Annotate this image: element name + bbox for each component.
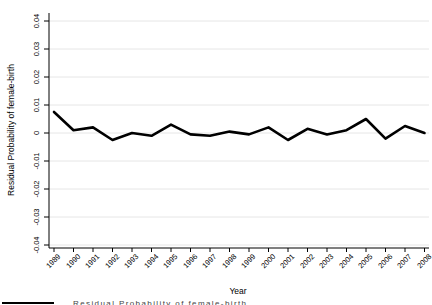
y-tick-label: -0.04 <box>31 228 41 262</box>
legend-label: Residual Probability of female-birth <box>73 299 247 305</box>
legend: Residual Probability of female-birth <box>0 299 432 305</box>
chart-figure: 0.040.030.020.010-0.01-0.02-0.03-0.04 19… <box>0 0 432 305</box>
y-axis-title: Residual Probability of female-birth <box>5 30 17 230</box>
legend-line-swatch <box>2 302 54 304</box>
data-line-residual-series <box>54 112 425 140</box>
x-axis-title: Year <box>188 286 288 296</box>
